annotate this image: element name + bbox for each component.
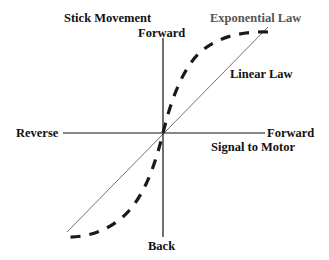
- exponential-law-curve: [66, 32, 268, 237]
- signal-to-motor-label: Signal to Motor: [211, 141, 295, 154]
- stick-movement-label: Stick Movement: [64, 12, 151, 25]
- linear-law-line: [67, 27, 268, 232]
- horizontal-forward-label: Forward: [267, 127, 314, 140]
- back-label: Back: [148, 240, 175, 253]
- reverse-label: Reverse: [16, 127, 58, 140]
- stick-movement-diagram: Stick Movement Forward Exponential Law L…: [0, 0, 329, 260]
- exponential-law-label: Exponential Law: [210, 12, 301, 25]
- linear-law-label: Linear Law: [230, 68, 293, 81]
- vertical-forward-label: Forward: [138, 27, 185, 40]
